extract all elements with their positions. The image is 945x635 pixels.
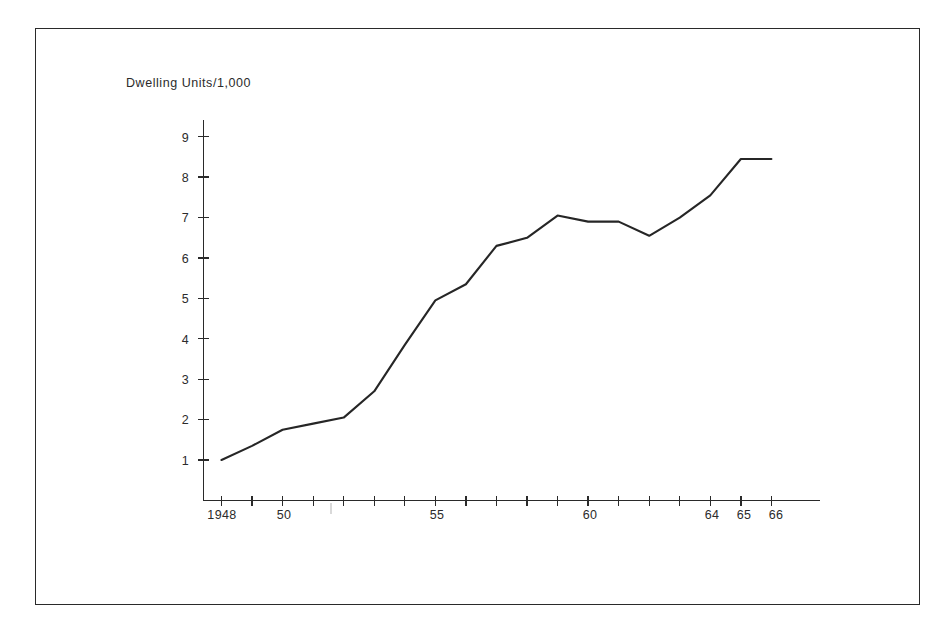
- x-tick-label-1948: 1948: [207, 508, 236, 522]
- data-series-line: [222, 159, 772, 460]
- y-tick-label-1: 1: [182, 454, 189, 468]
- x-tick-label-66: 66: [769, 508, 784, 522]
- y-tick-label-9: 9: [182, 131, 189, 145]
- y-tick-label-2: 2: [182, 413, 189, 427]
- chart-plot-area: 9 8 7 6 5 4 3 2 1 1948 50 55 60 64 65 66: [0, 0, 945, 635]
- x-tick-label-65: 65: [737, 508, 752, 522]
- y-tick-label-8: 8: [182, 171, 189, 185]
- y-tick-label-5: 5: [182, 292, 189, 306]
- x-tick-label-64: 64: [705, 508, 720, 522]
- scan-artifact: [330, 503, 332, 514]
- y-tick-label-6: 6: [182, 252, 189, 266]
- x-tick-label-50: 50: [277, 508, 292, 522]
- figure-root: Dwelling Units/1,000 9 8 7 6 5 4 3 2: [0, 0, 945, 635]
- y-tick-label-4: 4: [182, 333, 189, 347]
- x-tick-label-60: 60: [583, 508, 598, 522]
- y-tick-labels: 9 8 7 6 5 4 3 2 1: [182, 131, 189, 468]
- y-tick-label-3: 3: [182, 373, 189, 387]
- y-tick-label-7: 7: [182, 211, 189, 225]
- x-tick-label-55: 55: [430, 508, 445, 522]
- x-tick-labels: 1948 50 55 60 64 65 66: [207, 508, 783, 522]
